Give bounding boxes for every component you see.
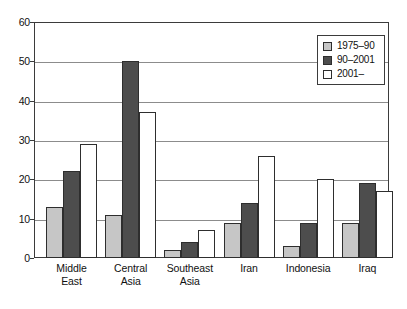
bar <box>342 223 359 258</box>
y-tick-label: 10 <box>6 214 30 225</box>
bar <box>105 215 122 258</box>
bar <box>139 112 156 258</box>
y-tick-mark <box>30 219 34 220</box>
legend-label: 2001– <box>337 69 364 79</box>
bar <box>258 156 275 258</box>
legend-label: 90–2001 <box>337 55 375 65</box>
bar <box>122 61 139 258</box>
bar-group <box>46 22 97 258</box>
bar <box>283 246 300 258</box>
bar-chart: 6050403020100 Middle EastCentral AsiaSou… <box>0 0 407 309</box>
bar <box>241 203 258 258</box>
legend-item: 1975–90 <box>323 40 379 52</box>
bar-group <box>164 22 215 258</box>
legend-swatch-icon <box>323 42 332 51</box>
y-tick-mark <box>30 258 34 259</box>
bar <box>359 183 376 258</box>
y-tick-mark <box>30 22 34 23</box>
y-tick-label: 50 <box>6 56 30 67</box>
bar <box>164 250 181 258</box>
legend-item: 2001– <box>323 68 379 80</box>
legend-label: 1975–90 <box>337 41 375 51</box>
bar <box>46 207 63 258</box>
bar <box>80 144 97 258</box>
y-tick-mark <box>30 101 34 102</box>
y-tick-mark <box>30 140 34 141</box>
legend-swatch-icon <box>323 70 332 79</box>
bar <box>198 230 215 258</box>
x-tick-label: Iraq <box>327 262 407 275</box>
bar-group <box>224 22 275 258</box>
y-tick-label: 0 <box>6 253 30 264</box>
bar <box>317 179 334 258</box>
y-tick-label: 30 <box>6 135 30 146</box>
y-tick-mark <box>30 61 34 62</box>
bar <box>376 191 393 258</box>
legend-swatch-icon <box>323 56 332 65</box>
legend-item: 90–2001 <box>323 54 379 66</box>
bar <box>300 223 317 258</box>
y-axis: 6050403020100 <box>0 0 30 309</box>
bar-group <box>105 22 156 258</box>
y-tick-label: 40 <box>6 96 30 107</box>
y-tick-label: 20 <box>6 174 30 185</box>
bar <box>63 171 80 258</box>
y-tick-mark <box>30 179 34 180</box>
bar <box>224 223 241 258</box>
chart-legend: 1975–90 90–2001 2001– <box>317 35 385 85</box>
y-tick-label: 60 <box>6 17 30 28</box>
bar <box>181 242 198 258</box>
